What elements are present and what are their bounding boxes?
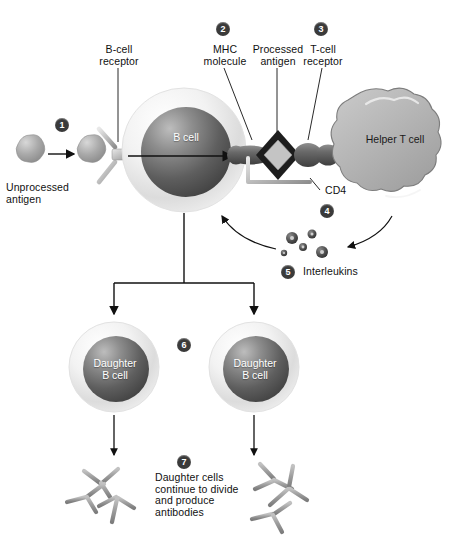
step-badge-5: 5 [281, 265, 295, 279]
b-cell-glyph [122, 88, 246, 212]
label-tcell-receptor: T-cell receptor [294, 44, 352, 67]
step-badge-2: 2 [216, 22, 230, 36]
step-badge-3: 3 [314, 22, 328, 36]
interleukin-stimulates-arrow [222, 216, 276, 249]
antibody-glyph [252, 503, 290, 532]
label-unprocessed-antigen: Unprocessed antigen [6, 182, 69, 205]
daughter-b-cell-left-glyph [69, 322, 159, 412]
processed-antigen-glyph [256, 130, 300, 180]
step-badge-1: 1 [55, 118, 69, 132]
t-cell-secretes-arrow [348, 216, 392, 247]
step-badge-4: 4 [320, 204, 334, 218]
step-badge-6: 6 [177, 338, 191, 352]
bound-antigen-glyph [77, 135, 106, 163]
interleukins-glyph [281, 230, 328, 259]
antibody-glyph [255, 464, 292, 489]
unprocessed-antigen-glyph [16, 135, 45, 163]
label-daughter-note: Daughter cells continue to divide and pr… [155, 472, 247, 518]
label-interleukins: Interleukins [303, 266, 358, 278]
step-badge-7: 7 [177, 455, 191, 469]
label-bcell-receptor: B-cell receptor [88, 44, 150, 67]
antibody-cluster-right [252, 464, 307, 532]
diagram-artwork [0, 0, 458, 550]
helper-t-cell-glyph [331, 88, 441, 197]
label-cd4: CD4 [325, 185, 346, 197]
diagram-canvas: 1 2 3 4 5 6 7 Unprocessed antigen B-cell… [0, 0, 458, 550]
antibody-glyph [270, 466, 307, 505]
antibody-production-arrows [114, 415, 254, 455]
antibody-cluster-left [67, 469, 134, 522]
daughter-b-cell-right-glyph [209, 322, 299, 412]
antibody-glyph [99, 497, 134, 522]
